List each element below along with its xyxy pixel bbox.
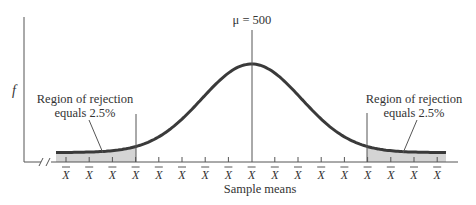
sampling-distribution-figure: XXXXXXXXXXXXXXXXX μ = 500 f Region of re…	[0, 0, 476, 205]
left-label-leader	[89, 120, 103, 153]
svg-text:X: X	[201, 168, 210, 182]
svg-text:X: X	[317, 168, 326, 182]
svg-text:X: X	[247, 168, 256, 182]
svg-text:X: X	[433, 168, 442, 182]
svg-text:X: X	[61, 168, 70, 182]
svg-text:X: X	[85, 168, 94, 182]
mean-label: μ = 500	[233, 13, 272, 27]
svg-text:X: X	[293, 168, 302, 182]
y-axis-label: f	[12, 83, 18, 98]
right-region-label-line2: equals 2.5%	[383, 106, 444, 120]
svg-text:X: X	[131, 168, 140, 182]
svg-text:X: X	[108, 168, 117, 182]
right-region-label-line1: Region of rejection	[366, 92, 463, 106]
svg-text:X: X	[386, 168, 395, 182]
svg-text:X: X	[340, 168, 349, 182]
svg-text:X: X	[224, 168, 233, 182]
svg-text:X: X	[154, 168, 163, 182]
right-label-leader	[403, 120, 417, 153]
svg-text:X: X	[409, 168, 418, 182]
left-region-label-line1: Region of rejection	[37, 92, 134, 106]
svg-text:X: X	[363, 168, 372, 182]
axis-break-icon	[39, 158, 50, 166]
x-axis-label: Sample means	[224, 182, 297, 196]
svg-text:X: X	[177, 168, 186, 182]
left-region-label-line2: equals 2.5%	[54, 106, 115, 120]
svg-text:X: X	[270, 168, 279, 182]
